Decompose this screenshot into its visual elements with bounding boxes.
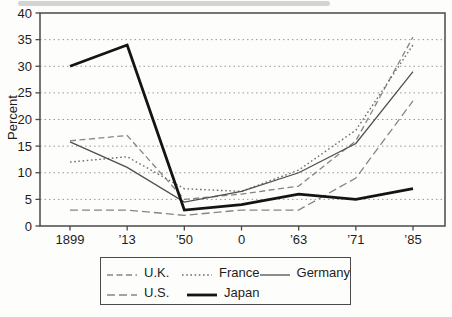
us-line-swatch <box>107 287 137 299</box>
series-line-uk <box>70 37 413 199</box>
germany-line-swatch <box>260 267 290 279</box>
x-tick-label: ’13 <box>118 232 135 247</box>
france-line-swatch <box>182 267 212 279</box>
japan-line-swatch <box>187 287 217 299</box>
legend: U.K. France Germany U.S. Japan <box>100 257 351 305</box>
x-tick-label: ’85 <box>404 232 421 247</box>
series-line-japan <box>70 45 413 210</box>
uk-line-swatch <box>107 267 137 279</box>
y-tick-label: 40 <box>18 6 32 21</box>
legend-item-us: U.S. <box>107 286 187 300</box>
x-tick-label: 0 <box>238 232 245 247</box>
legend-row-2: U.S. Japan <box>107 283 350 303</box>
x-tick-label: ’50 <box>176 232 193 247</box>
line-chart-canvas: 05101520253035401899’13’500’63’71’85 <box>0 0 452 252</box>
legend-label-france: France <box>219 266 259 280</box>
x-tick-label: 1899 <box>56 232 85 247</box>
legend-label-us: U.S. <box>144 286 169 300</box>
y-tick-label: 0 <box>25 219 32 234</box>
legend-item-japan: Japan <box>187 286 267 300</box>
x-tick-label: ’71 <box>347 232 364 247</box>
legend-label-japan: Japan <box>224 286 259 300</box>
y-axis-title: Percent <box>5 58 22 178</box>
legend-item-germany: Germany <box>260 266 350 280</box>
series-line-germany <box>70 72 413 202</box>
y-tick-label: 35 <box>18 32 32 47</box>
legend-item-uk: U.K. <box>107 266 182 280</box>
legend-row-1: U.K. France Germany <box>107 263 350 283</box>
x-tick-label: ’63 <box>290 232 307 247</box>
y-tick-label: 5 <box>25 192 32 207</box>
chart-figure: 05101520253035401899’13’500’63’71’85 Per… <box>0 0 452 317</box>
legend-label-uk: U.K. <box>144 266 169 280</box>
legend-item-france: France <box>182 266 259 280</box>
legend-label-germany: Germany <box>297 266 350 280</box>
